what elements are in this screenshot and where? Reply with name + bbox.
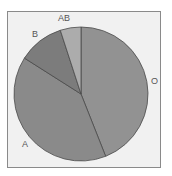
- pie-chart: [0, 0, 172, 176]
- label-b: B: [32, 30, 38, 39]
- label-a: A: [22, 140, 28, 149]
- pie-slices: [14, 27, 148, 161]
- label-o: O: [151, 77, 158, 86]
- label-ab: AB: [58, 14, 70, 23]
